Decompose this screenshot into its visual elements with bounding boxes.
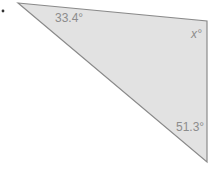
- angle-label-bottom: 51.3°: [176, 120, 204, 134]
- triangle-diagram: 33.4° x° 51.3°: [0, 0, 209, 176]
- angle-label-top-left: 33.4°: [55, 11, 83, 25]
- angle-label-top-right: x°: [190, 27, 202, 41]
- bullet-marker: [2, 10, 5, 13]
- triangle-shape: [18, 3, 207, 162]
